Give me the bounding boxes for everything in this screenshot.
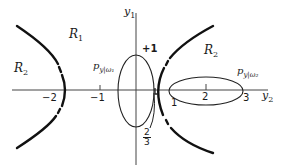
tick-label-neg1: −1 [90, 93, 105, 103]
left-decision-boundary-dash1 [59, 67, 61, 72]
left-decision-boundary [17, 26, 58, 64]
region-r2-right-name: R [204, 43, 213, 57]
region-r2-left-label: R2 [14, 62, 28, 77]
left-decision-boundary-low [17, 116, 56, 148]
region-r1-label: R1 [69, 28, 83, 43]
right-decision-boundary-dash1 [166, 61, 168, 65]
right-decision-boundary-low [171, 128, 213, 153]
tick-label-three: 3 [243, 93, 249, 103]
y2-axis-label: y2 [262, 90, 273, 104]
y2-axis-sub: 2 [268, 95, 273, 104]
fraction-denominator: 3 [143, 138, 151, 147]
density-omega2-sub: y|ω₂ [243, 71, 258, 79]
tick-label-plus-one: +1 [142, 44, 157, 54]
region-r1-name: R [69, 27, 78, 41]
tick-label-one: 1 [171, 98, 177, 108]
region-r2-left-sub: 2 [23, 68, 28, 77]
decision-boundary-diagram: y1 y2 −2 −1 1 2 3 +1 2 3 R1 R2 R2 py|ω₁ … [0, 0, 283, 165]
region-r2-right-label: R2 [204, 44, 218, 59]
region-r2-right-sub: 2 [213, 50, 218, 59]
left-decision-boundary-dash2 [58, 109, 60, 113]
two-thirds-label: 2 3 [143, 128, 151, 147]
y1-axis-sub: 1 [130, 11, 135, 20]
diagram-canvas [0, 0, 283, 165]
right-decision-boundary-mid [158, 68, 164, 115]
region-r1-sub: 1 [78, 34, 83, 43]
tick-label-neg2: −2 [42, 93, 57, 103]
region-r2-left-name: R [14, 61, 23, 75]
density-omega1-sub: y|ω₁ [99, 66, 114, 74]
right-decision-boundary-dash2 [166, 120, 168, 124]
y1-axis-label: y1 [124, 6, 135, 20]
density-omega2-label: py|ω₂ [237, 66, 258, 79]
density-omega1-label: py|ω₁ [93, 61, 114, 74]
tick-label-two: 2 [202, 92, 208, 102]
